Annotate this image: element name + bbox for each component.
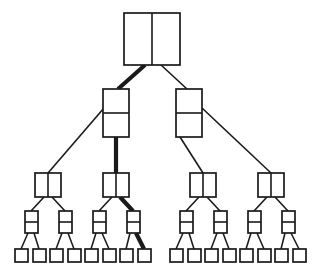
leaf-node-9[interactable] — [170, 249, 183, 262]
edge-root-to-level2-left — [118, 65, 145, 89]
level3-node-2[interactable] — [103, 173, 129, 197]
edge-level4-4-to-leaf-7 — [126, 233, 130, 249]
level4-node-8[interactable] — [282, 211, 295, 233]
leaf-node-12-box — [223, 249, 236, 262]
edge-level3-2-to-level4-3 — [99, 197, 112, 211]
leaf-node-16-box — [293, 249, 306, 262]
level4-node-4[interactable] — [127, 211, 140, 233]
edge-level4-7-to-leaf-14 — [257, 233, 264, 249]
leaf-node-13[interactable] — [240, 249, 253, 262]
edge-level3-3-to-level4-6 — [207, 197, 220, 211]
edge-level2right-to-level3-3 — [180, 137, 203, 173]
level4-node-7[interactable] — [248, 211, 261, 233]
leaf-node-15[interactable] — [275, 249, 288, 262]
leaf-node-13-box — [240, 249, 253, 262]
leaf-node-10-box — [188, 249, 201, 262]
leaf-node-7[interactable] — [120, 249, 133, 262]
edge-level4-1-to-leaf-2 — [34, 233, 39, 249]
leaf-node-4[interactable] — [68, 249, 81, 262]
edge-level4-6-to-leaf-12 — [223, 233, 229, 249]
leaf-node-8-box — [138, 249, 151, 262]
level4-node-5[interactable] — [180, 211, 193, 233]
edge-level2left-to-level3-1 — [48, 108, 104, 173]
leaf-node-15-box — [275, 249, 288, 262]
leaf-node-6[interactable] — [103, 249, 116, 262]
leaf-node-6-box — [103, 249, 116, 262]
edge-level4-5-to-leaf-9 — [176, 233, 183, 249]
edge-level4-1-to-leaf-1 — [21, 233, 28, 249]
leaf-node-3[interactable] — [50, 249, 63, 262]
leaf-node-7-box — [120, 249, 133, 262]
leaf-node-2-box — [33, 249, 46, 262]
leaf-node-14-box — [258, 249, 271, 262]
leaf-node-4-box — [68, 249, 81, 262]
leaf-node-10[interactable] — [188, 249, 201, 262]
edge-level3-4-to-level4-7 — [254, 197, 267, 211]
edge-level3-1-to-level4-2 — [52, 197, 65, 211]
edge-level4-7-to-leaf-13 — [246, 233, 251, 249]
leaf-node-8[interactable] — [138, 249, 151, 262]
level3-node-3[interactable] — [190, 173, 216, 197]
edge-level3-1-to-level4-1 — [31, 197, 44, 211]
level4-node-2[interactable] — [59, 211, 72, 233]
edge-level4-8-to-leaf-16 — [291, 233, 299, 249]
edge-level4-3-to-leaf-6 — [102, 233, 109, 249]
leaf-node-2[interactable] — [33, 249, 46, 262]
edge-level4-2-to-leaf-3 — [56, 233, 62, 249]
leaf-node-9-box — [170, 249, 183, 262]
root-node[interactable] — [124, 13, 180, 65]
level4-node-6[interactable] — [214, 211, 227, 233]
level2-node-right[interactable] — [176, 89, 202, 137]
edge-level3-2-to-level4-4 — [120, 197, 133, 211]
nodes-layer — [15, 13, 306, 262]
level4-node-3[interactable] — [93, 211, 106, 233]
level3-node-1[interactable] — [35, 173, 61, 197]
leaf-node-3-box — [50, 249, 63, 262]
leaf-node-1[interactable] — [15, 249, 28, 262]
edge-level4-5-to-leaf-10 — [189, 233, 194, 249]
level3-node-4[interactable] — [258, 173, 284, 197]
leaf-node-11-box — [205, 249, 218, 262]
leaf-node-5-box — [85, 249, 98, 262]
edge-level3-3-to-level4-5 — [186, 197, 199, 211]
edge-root-to-level2-right — [161, 65, 187, 89]
edge-level4-2-to-leaf-4 — [68, 233, 74, 249]
leaf-node-11[interactable] — [205, 249, 218, 262]
leaf-node-16[interactable] — [293, 249, 306, 262]
leaf-node-5[interactable] — [85, 249, 98, 262]
leaf-node-1-box — [15, 249, 28, 262]
level2-node-left[interactable] — [103, 89, 129, 137]
edge-level4-4-to-leaf-8 — [136, 233, 144, 249]
tree-diagram — [0, 0, 321, 273]
edge-level4-6-to-leaf-11 — [211, 233, 217, 249]
tree-diagram-canvas — [0, 0, 321, 273]
edge-level4-8-to-leaf-15 — [281, 233, 285, 249]
leaf-node-12[interactable] — [223, 249, 236, 262]
edge-level2right-to-level3-4 — [202, 108, 271, 173]
leaf-node-14[interactable] — [258, 249, 271, 262]
edge-level4-3-to-leaf-5 — [91, 233, 96, 249]
level4-node-1[interactable] — [25, 211, 38, 233]
edge-level3-4-to-level4-8 — [275, 197, 288, 211]
